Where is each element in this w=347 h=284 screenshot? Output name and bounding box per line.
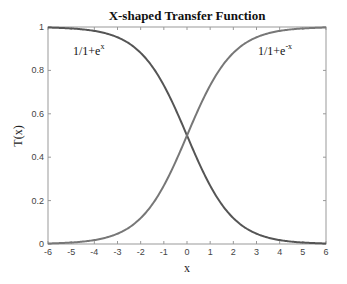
x-tick-label: 1	[208, 247, 213, 257]
y-tick-label: 0.8	[31, 65, 44, 75]
y-tick-label: 0.6	[31, 109, 44, 119]
y-axis-label: T(x)	[11, 125, 25, 146]
x-tick-label: -2	[137, 247, 145, 257]
chart-title: X-shaped Transfer Function	[109, 8, 267, 23]
x-tick-label: -3	[113, 247, 121, 257]
chart: X-shaped Transfer Function -6-5-4-3-2-10…	[0, 0, 347, 284]
x-axis-label: x	[184, 261, 190, 275]
x-tick-label: 5	[300, 247, 305, 257]
annotation-left: 1/1+ex	[73, 42, 104, 58]
x-tick-label: 3	[254, 247, 259, 257]
x-tick-label: 4	[277, 247, 282, 257]
y-tick-label: 0.2	[31, 196, 44, 206]
x-tick-label: 6	[323, 247, 328, 257]
x-tick-label: -6	[44, 247, 52, 257]
y-tick-label: 0	[39, 239, 44, 249]
x-tick-label: -4	[90, 247, 98, 257]
x-tick-label: 2	[231, 247, 236, 257]
x-tick-label: -5	[67, 247, 75, 257]
x-tick-label: 0	[184, 247, 189, 257]
x-tick-label: -1	[160, 247, 168, 257]
y-tick-label: 0.4	[31, 152, 44, 162]
y-tick-label: 1	[39, 22, 44, 32]
